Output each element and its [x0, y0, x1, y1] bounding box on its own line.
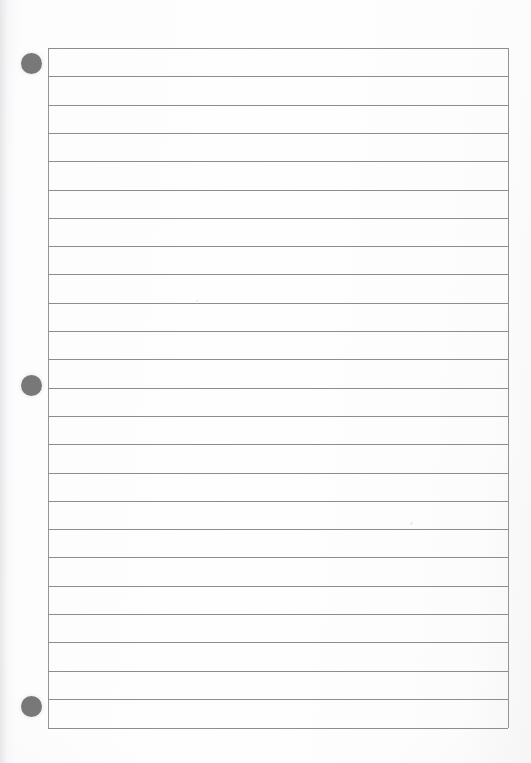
- rule-line: [48, 105, 508, 106]
- rule-line: [48, 76, 508, 77]
- ruled-area-right-border: [508, 48, 509, 728]
- rule-line: [48, 529, 508, 530]
- rule-line: [48, 614, 508, 615]
- bottom-punch-hole: [21, 696, 42, 717]
- rule-line: [48, 190, 508, 191]
- rule-line: [48, 557, 508, 558]
- rule-line: [48, 699, 508, 700]
- rule-line: [48, 671, 508, 672]
- top-punch-hole: [21, 53, 42, 74]
- notebook-page: [0, 0, 531, 763]
- rule-line: [48, 416, 508, 417]
- rule-line: [48, 331, 508, 332]
- rule-line: [48, 444, 508, 445]
- rule-line: [48, 586, 508, 587]
- middle-punch-hole: [21, 375, 42, 396]
- rule-line: [48, 133, 508, 134]
- rule-line: [48, 728, 508, 729]
- rule-line: [48, 359, 508, 360]
- rule-line: [48, 642, 508, 643]
- rule-line: [48, 388, 508, 389]
- rule-line: [48, 246, 508, 247]
- rule-line: [48, 501, 508, 502]
- rule-line: [48, 48, 508, 49]
- ruled-writing-area[interactable]: [48, 48, 508, 728]
- page-left-edge-shadow: [0, 0, 16, 763]
- rule-line: [48, 161, 508, 162]
- rule-line: [48, 274, 508, 275]
- rule-line: [48, 303, 508, 304]
- rule-line: [48, 473, 508, 474]
- rule-line: [48, 218, 508, 219]
